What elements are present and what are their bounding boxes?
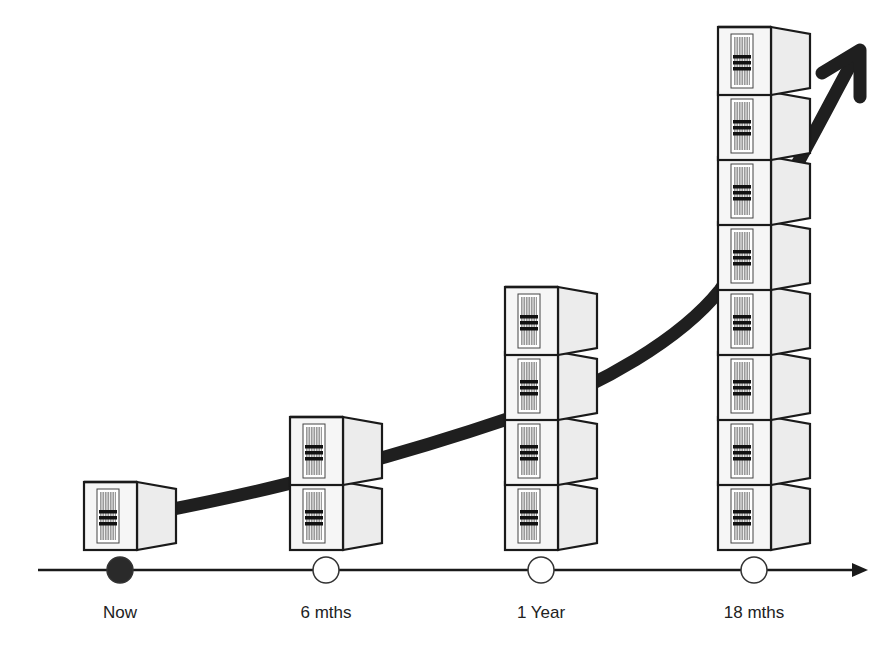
milestone-marker: [741, 557, 767, 583]
diagram-canvas: [0, 0, 896, 650]
milestone-label: 1 Year: [517, 603, 565, 623]
milestone-label: 18 mths: [724, 603, 784, 623]
milestone-marker: [528, 557, 554, 583]
server-icon: [718, 27, 810, 95]
server-stacks: [84, 27, 810, 550]
server-icon: [718, 92, 810, 160]
server-icon: [505, 417, 597, 485]
milestone-label: 6 mths: [300, 603, 351, 623]
server-icon: [505, 482, 597, 550]
server-stack: [290, 417, 382, 550]
server-icon: [290, 482, 382, 550]
server-icon: [718, 222, 810, 290]
server-stack: [84, 482, 176, 550]
server-stack: [718, 27, 810, 550]
current-milestone-marker: [107, 557, 133, 583]
server-icon: [84, 482, 176, 550]
server-icon: [505, 352, 597, 420]
timeline-arrow-head: [852, 563, 868, 577]
milestone-marker: [313, 557, 339, 583]
server-icon: [718, 352, 810, 420]
server-icon: [718, 287, 810, 355]
server-icon: [290, 417, 382, 485]
milestone-label: Now: [103, 603, 137, 623]
growth-diagram: Now6 mths1 Year18 mths: [0, 0, 896, 650]
server-icon: [718, 417, 810, 485]
server-stack: [505, 287, 597, 550]
server-icon: [505, 287, 597, 355]
server-icon: [718, 157, 810, 225]
server-icon: [718, 482, 810, 550]
